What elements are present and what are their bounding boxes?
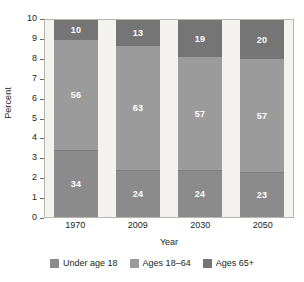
bar-segment-ages65plus: 10 bbox=[54, 20, 98, 40]
legend-item-ages-18-64: Ages 18–64 bbox=[130, 258, 191, 268]
legend-swatch-icon bbox=[130, 259, 139, 268]
bar-segment-under18: 24 bbox=[178, 170, 222, 217]
y-axis-tick-label: 2 bbox=[32, 171, 37, 184]
bar-segment-ages18to64: 56 bbox=[54, 40, 98, 150]
x-axis-title: Year bbox=[44, 237, 294, 247]
y-axis-tick-label: 1 bbox=[32, 191, 37, 204]
bar-2030: 19 57 24 bbox=[178, 20, 222, 217]
legend-label: Ages 18–64 bbox=[143, 258, 191, 268]
legend-label: Ages 65+ bbox=[216, 258, 254, 268]
y-axis-tick-mark bbox=[40, 218, 44, 219]
bar-segment-ages65plus: 20 bbox=[240, 20, 284, 59]
legend-item-under-age-18: Under age 18 bbox=[50, 258, 118, 268]
y-axis-tick-label: 3 bbox=[32, 151, 37, 164]
x-axis-tick-label: 2009 bbox=[116, 220, 160, 230]
chart-legend: Under age 18 Ages 18–64 Ages 65+ bbox=[0, 258, 304, 268]
bar-1970: 10 56 34 bbox=[54, 20, 98, 217]
plot-area: 10 56 34 13 63 24 19 57 24 20 57 23 bbox=[44, 19, 294, 218]
legend-item-ages-65-plus: Ages 65+ bbox=[203, 258, 254, 268]
stacked-bar-chart: Percent 0 1 2 3 4 5 6 7 bbox=[0, 0, 304, 282]
x-axis-tick-label: 2030 bbox=[178, 220, 222, 230]
y-axis-tick-label: 0 bbox=[32, 211, 37, 224]
y-axis-tick-label: 5 bbox=[32, 112, 37, 125]
bar-segment-ages65plus: 13 bbox=[116, 20, 160, 46]
bar-2009: 13 63 24 bbox=[116, 20, 160, 217]
y-axis-tick-label: 10 bbox=[27, 12, 37, 25]
x-axis: 1970 2009 2030 2050 bbox=[44, 220, 294, 236]
x-axis-tick-label: 2050 bbox=[241, 220, 285, 230]
y-axis-tick-label: 9 bbox=[32, 32, 37, 45]
y-axis-tick-label: 6 bbox=[32, 92, 37, 105]
bar-segment-under18: 24 bbox=[116, 170, 160, 217]
bar-segment-ages18to64: 57 bbox=[178, 57, 222, 169]
legend-label: Under age 18 bbox=[63, 258, 118, 268]
bar-segment-ages18to64: 63 bbox=[116, 46, 160, 170]
bar-segment-ages65plus: 19 bbox=[178, 20, 222, 57]
y-axis-tick-label: 7 bbox=[32, 72, 37, 85]
y-axis-tick-label: 8 bbox=[32, 52, 37, 65]
bar-segment-ages18to64: 57 bbox=[240, 59, 284, 171]
y-axis: 0 1 2 3 4 5 6 7 bbox=[0, 19, 44, 218]
bar-group: 10 56 34 13 63 24 19 57 24 20 57 23 bbox=[45, 20, 293, 217]
legend-swatch-icon bbox=[50, 259, 59, 268]
x-axis-tick-label: 1970 bbox=[53, 220, 97, 230]
bar-segment-under18: 34 bbox=[54, 150, 98, 217]
legend-swatch-icon bbox=[203, 259, 212, 268]
y-axis-tick-label: 4 bbox=[32, 131, 37, 144]
bar-segment-under18: 23 bbox=[240, 172, 284, 217]
bar-2050: 20 57 23 bbox=[240, 20, 284, 217]
